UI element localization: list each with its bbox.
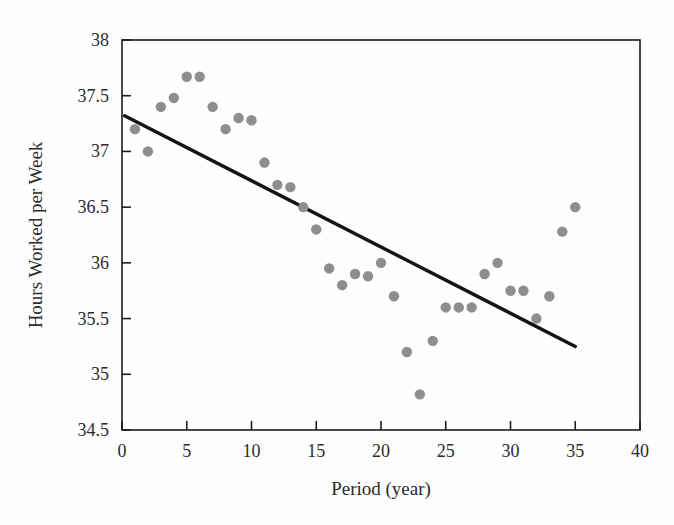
data-point (207, 102, 217, 112)
data-point (454, 302, 464, 312)
y-tick-label: 35.5 (78, 309, 110, 329)
data-point (156, 102, 166, 112)
y-tick-label: 37.5 (78, 86, 110, 106)
data-point (169, 93, 179, 103)
data-point (363, 271, 373, 281)
data-point (466, 302, 476, 312)
y-axis-ticks (122, 40, 131, 430)
data-point (337, 280, 347, 290)
data-point (544, 291, 554, 301)
data-point (182, 72, 192, 82)
y-tick-label: 36.5 (78, 197, 110, 217)
x-tick-label: 25 (437, 441, 455, 461)
data-point (376, 258, 386, 268)
data-point (311, 224, 321, 234)
x-tick-label: 15 (307, 441, 325, 461)
data-point (505, 286, 515, 296)
trend-line-group (125, 116, 576, 347)
trend-line (125, 116, 576, 347)
data-point (518, 286, 528, 296)
figure-container: 34.53535.53636.53737.538 051015202530354… (0, 0, 674, 525)
x-tick-label: 20 (372, 441, 390, 461)
data-point (220, 124, 230, 134)
data-point (324, 263, 334, 273)
data-point (195, 72, 205, 82)
data-point (233, 113, 243, 123)
x-axis-ticks (122, 421, 640, 430)
data-point (570, 202, 580, 212)
data-point (492, 258, 502, 268)
data-point (402, 347, 412, 357)
y-tick-label: 36 (91, 253, 109, 273)
data-point (531, 313, 541, 323)
data-point (557, 226, 567, 236)
data-point (389, 291, 399, 301)
y-tick-label: 34.5 (78, 420, 110, 440)
scatter-plot: 34.53535.53636.53737.538 051015202530354… (0, 0, 674, 525)
y-axis-label: Hours Worked per Week (25, 141, 46, 328)
x-tick-label: 0 (118, 441, 127, 461)
data-point (130, 124, 140, 134)
y-axis-tick-labels: 34.53535.53636.53737.538 (78, 30, 110, 440)
x-tick-label: 5 (182, 441, 191, 461)
data-point (479, 269, 489, 279)
data-point (246, 115, 256, 125)
data-point (441, 302, 451, 312)
data-point (143, 146, 153, 156)
data-point (285, 182, 295, 192)
y-tick-label: 38 (91, 30, 109, 50)
data-point (415, 389, 425, 399)
x-tick-label: 10 (243, 441, 261, 461)
x-tick-label: 40 (631, 441, 649, 461)
y-tick-label: 37 (91, 141, 109, 161)
x-axis-label: Period (year) (331, 478, 431, 500)
data-point (298, 202, 308, 212)
data-point (272, 180, 282, 190)
data-point (428, 336, 438, 346)
data-point (350, 269, 360, 279)
x-tick-label: 35 (566, 441, 584, 461)
data-point (259, 157, 269, 167)
x-tick-label: 30 (502, 441, 520, 461)
y-tick-label: 35 (91, 364, 109, 384)
x-axis-tick-labels: 0510152025303540 (118, 441, 650, 461)
